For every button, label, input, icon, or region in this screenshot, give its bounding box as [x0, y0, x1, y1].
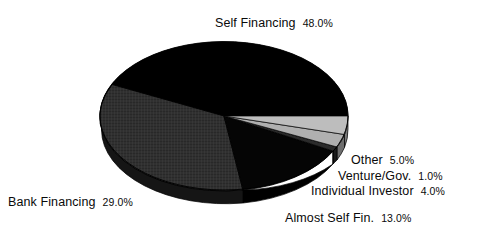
slice-label-percent: 4.0%	[421, 185, 445, 197]
slice-label-almost-self-fin: Almost Self Fin.13.0%	[285, 209, 411, 225]
slice-label-bank-financing: Bank Financing29.0%	[8, 193, 133, 209]
pie-chart-figure: Self Financing48.0% Other5.0% Venture/Go…	[0, 0, 480, 236]
slice-label-percent: 29.0%	[103, 196, 133, 208]
slice-label-self-financing: Self Financing48.0%	[215, 14, 333, 30]
slice-label-percent: 5.0%	[390, 154, 414, 166]
slice-label-name: Self Financing	[215, 16, 296, 30]
slice-label-percent: 13.0%	[381, 212, 411, 224]
slice-label-name: Almost Self Fin.	[285, 211, 374, 225]
slice-label-name: Bank Financing	[8, 195, 96, 209]
slice-label-name: Other	[351, 153, 383, 167]
slice-label-name: Venture/Gov.	[338, 169, 411, 183]
slice-label-other: Other5.0%	[351, 151, 414, 167]
slice-label-venture-gov: Venture/Gov.1.0%	[338, 167, 443, 183]
slice-label-percent: 1.0%	[418, 170, 442, 182]
slice-label-name: Individual Investor	[311, 184, 414, 198]
slice-label-percent: 48.0%	[303, 17, 333, 29]
slice-label-individual-investor: Individual Investor4.0%	[311, 182, 445, 198]
chart-plot-area: Self Financing48.0% Other5.0% Venture/Go…	[0, 0, 480, 236]
